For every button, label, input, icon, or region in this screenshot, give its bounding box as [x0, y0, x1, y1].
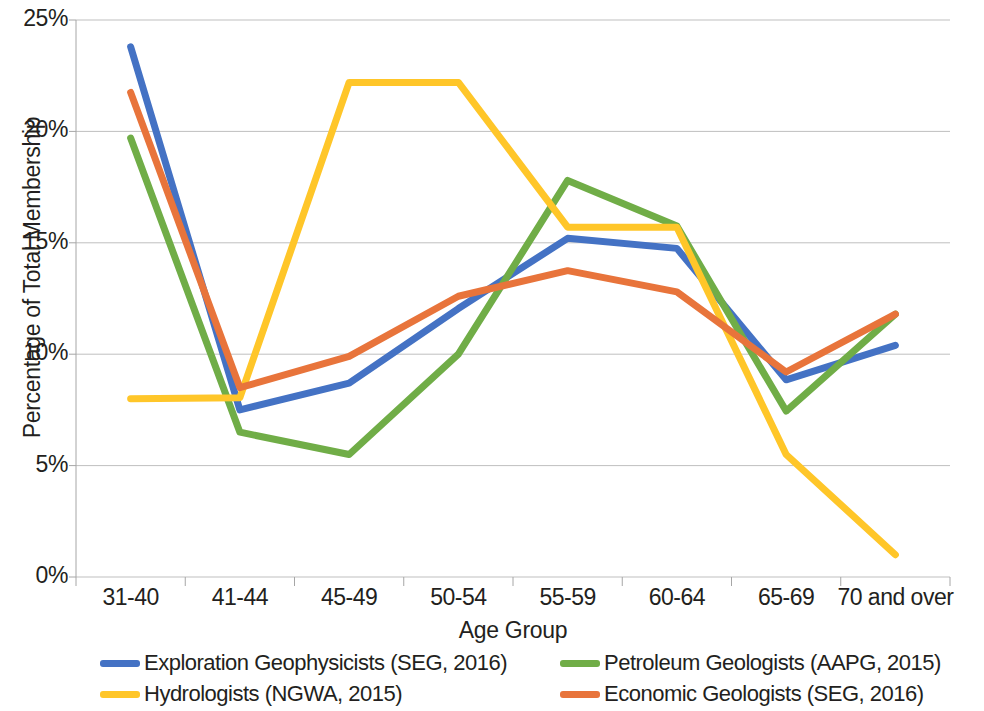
legend-item[interactable]: Economic Geologists (SEG, 2016): [560, 681, 924, 707]
legend-item[interactable]: Exploration Geophysicists (SEG, 2016): [100, 650, 507, 676]
legend-item[interactable]: Hydrologists (NGWA, 2015): [100, 681, 402, 707]
x-axis-tick-label: 70 and over: [805, 584, 984, 611]
legend-color-swatch: [100, 660, 140, 667]
legend-label: Economic Geologists (SEG, 2016): [604, 681, 924, 707]
legend-label: Hydrologists (NGWA, 2015): [144, 681, 402, 707]
legend-item[interactable]: Petroleum Geologists (AAPG, 2015): [560, 650, 941, 676]
series-line: [131, 92, 896, 387]
legend-color-swatch: [560, 660, 600, 667]
legend-color-swatch: [100, 691, 140, 698]
line-chart: Percentage of Total Membership 0%5%10%15…: [0, 0, 984, 711]
legend-label: Petroleum Geologists (AAPG, 2015): [604, 650, 941, 676]
series-line: [131, 47, 896, 410]
legend-color-swatch: [560, 691, 600, 698]
x-axis-title: Age Group: [76, 617, 950, 644]
series-line: [131, 82, 896, 554]
legend-label: Exploration Geophysicists (SEG, 2016): [144, 650, 507, 676]
chart-legend: Exploration Geophysicists (SEG, 2016)Hyd…: [0, 650, 984, 711]
